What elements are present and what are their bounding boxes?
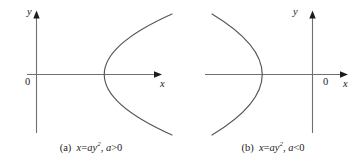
panel-a-y-axis-label: y xyxy=(27,6,32,17)
panel-b-caption: (b) x=ay2, a<0 xyxy=(182,140,364,153)
panel-b: y x 0 (b) x=ay2, a<0 xyxy=(182,0,364,168)
panel-b-caption-comma: , xyxy=(283,142,286,153)
panel-a-x-axis xyxy=(27,71,162,77)
panel-a-y-axis xyxy=(33,11,39,134)
panel-a-caption: (a) x=ay2, a>0 xyxy=(0,140,182,153)
panel-a: y x 0 (a) x=ay2, a>0 xyxy=(0,0,182,168)
panel-b-y-axis-label: y xyxy=(293,6,298,17)
panel-b-x-axis-label: x xyxy=(343,78,348,89)
panel-b-y-axis xyxy=(309,11,315,134)
panel-b-caption-label: (b) xyxy=(241,142,253,153)
panel-b-origin-label: 0 xyxy=(323,76,328,87)
panel-a-plot xyxy=(0,0,182,140)
parabola-figure: y x 0 (a) x=ay2, a>0 xyxy=(0,0,364,168)
panel-b-plot xyxy=(182,0,364,140)
panel-a-caption-label: (a) xyxy=(60,142,72,153)
panel-a-origin-label: 0 xyxy=(25,76,30,87)
panel-a-x-axis-label: x xyxy=(160,78,165,89)
panel-a-caption-comma: , xyxy=(101,142,104,153)
panel-a-caption-condition-value: 0 xyxy=(117,142,122,153)
panel-b-caption-condition-value: 0 xyxy=(299,142,304,153)
